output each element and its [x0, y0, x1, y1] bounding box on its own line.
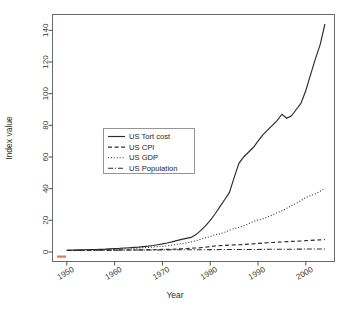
y-tick-label: 120 — [41, 55, 50, 69]
y-tick-label: 0 — [41, 249, 50, 254]
chart-figure: 020406080100120140 195019601970198019902… — [0, 0, 349, 316]
origin-marker — [57, 256, 66, 258]
legend-label-us-cpi[interactable]: US CPI — [129, 143, 154, 152]
y-axis-title: Index value — [4, 116, 14, 160]
y-tick-label: 80 — [41, 120, 50, 129]
line-chart-canvas: 020406080100120140 195019601970198019902… — [0, 0, 349, 316]
legend-label-us-population[interactable]: US Population — [129, 164, 178, 173]
chart-legend[interactable]: US Tort costUS CPIUS GDPUS Population — [104, 129, 195, 174]
legend-label-us-tort-cost[interactable]: US Tort cost — [129, 132, 171, 141]
y-tick-label: 100 — [41, 86, 50, 100]
y-tick-label: 40 — [41, 184, 50, 193]
y-tick-label: 140 — [41, 23, 50, 37]
legend-label-us-gdp[interactable]: US GDP — [129, 153, 158, 162]
y-tick-label: 60 — [41, 152, 50, 161]
y-tick-label: 20 — [41, 215, 50, 224]
x-axis-title: Year — [166, 290, 183, 300]
